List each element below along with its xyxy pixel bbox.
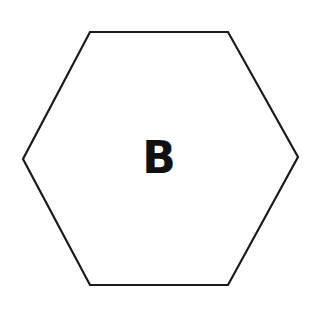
hexagon-label: B — [142, 132, 176, 183]
hexagon-diagram: B — [0, 0, 312, 317]
